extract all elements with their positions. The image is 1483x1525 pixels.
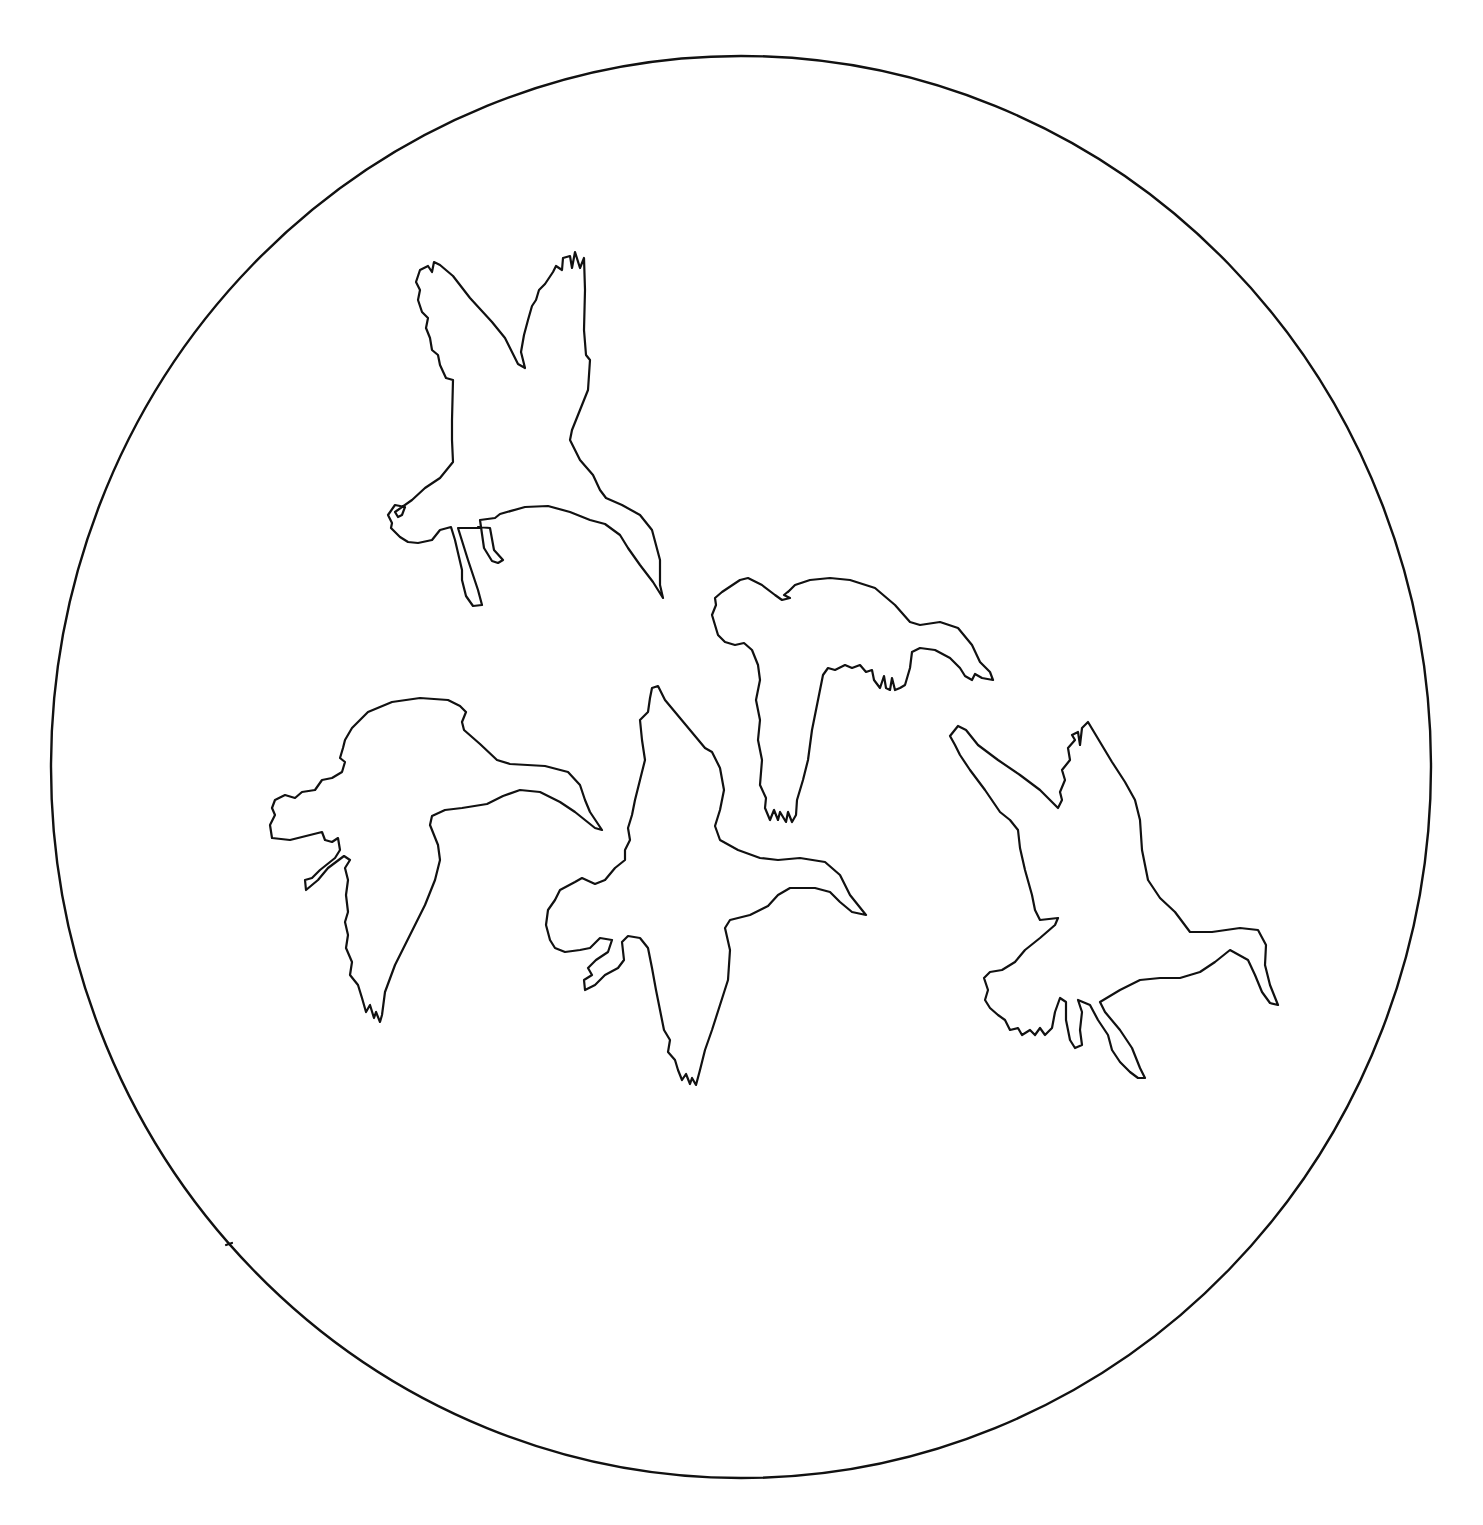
duck-2-outline [712, 578, 993, 822]
duck-5-outline [950, 722, 1278, 1078]
circle-frame [51, 56, 1431, 1478]
duck-1-outline [388, 252, 663, 606]
duck-3-outline [270, 698, 602, 1022]
duck-4-outline [546, 686, 866, 1085]
duck-illustration [0, 0, 1483, 1525]
